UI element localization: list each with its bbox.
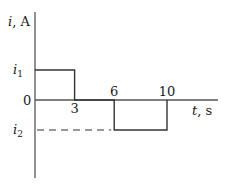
y-tick-i1: i1 bbox=[13, 62, 23, 79]
x-tick-10: 10 bbox=[159, 84, 176, 99]
x-tick-3: 3 bbox=[70, 101, 78, 116]
current-time-chart: i, A t, s i1 i2 0 3 6 10 bbox=[0, 0, 231, 187]
y-axis-label: i, A bbox=[8, 14, 30, 29]
y-tick-zero: 0 bbox=[23, 93, 31, 108]
x-axis-label: t, s bbox=[192, 103, 212, 118]
x-tick-6: 6 bbox=[110, 84, 118, 99]
y-tick-i2: i2 bbox=[13, 122, 23, 139]
